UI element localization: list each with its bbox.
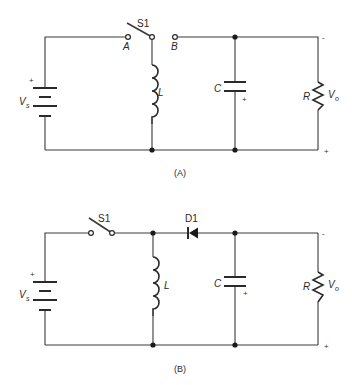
circuit-b-wires: [45, 233, 318, 345]
switch-icon: [126, 23, 178, 39]
caption-b: (B): [174, 364, 186, 374]
capacitor-plus-sign: +: [242, 95, 247, 104]
circuit-a-wires: [45, 37, 318, 150]
output-plus-sign: +: [324, 147, 329, 156]
junction-dot: [150, 230, 155, 235]
junction-dot: [232, 147, 237, 152]
resistor-label: R: [303, 281, 310, 292]
output-plus-sign: +: [324, 342, 329, 351]
source-plus-sign: +: [30, 270, 35, 279]
junction-dot: [149, 147, 154, 152]
output-minus-sign: -: [322, 229, 325, 238]
diode-icon: [188, 227, 198, 239]
resistor-icon: [313, 272, 323, 302]
output-subscript: o: [335, 285, 339, 292]
schematic-canvas: + V s S1 A B L C + R V o - +: [0, 0, 352, 385]
capacitor-label: C: [214, 83, 222, 94]
caption-a: (A): [174, 168, 186, 178]
source-subscript: s: [26, 102, 30, 109]
resistor-icon: [313, 82, 323, 110]
capacitor-plus-sign: +: [243, 289, 248, 298]
inductor-label: L: [158, 87, 164, 98]
inductor-label: L: [164, 280, 170, 291]
terminal-b-label: B: [171, 41, 178, 52]
switch-label: S1: [98, 213, 111, 224]
battery-icon: [33, 88, 57, 116]
inductor-icon: [153, 257, 159, 316]
circuit-b: + V s S1 D1 L C + R V o - +: [19, 213, 339, 374]
junction-dot: [232, 230, 237, 235]
junction-dot: [232, 34, 237, 39]
source-plus-sign: +: [29, 76, 34, 85]
capacitor-icon: [224, 82, 246, 91]
switch-label: S1: [137, 18, 150, 29]
terminal-a-label: A: [122, 41, 130, 52]
diode-label: D1: [185, 213, 198, 224]
capacitor-icon: [224, 277, 246, 286]
junction-dot: [232, 342, 237, 347]
junction-dot: [150, 342, 155, 347]
output-subscript: o: [335, 95, 339, 102]
source-subscript: s: [26, 295, 30, 302]
output-minus-sign: -: [322, 33, 325, 42]
battery-icon: [33, 282, 57, 310]
circuit-a: + V s S1 A B L C + R V o - +: [19, 18, 339, 178]
capacitor-label: C: [214, 278, 222, 289]
resistor-label: R: [303, 91, 310, 102]
